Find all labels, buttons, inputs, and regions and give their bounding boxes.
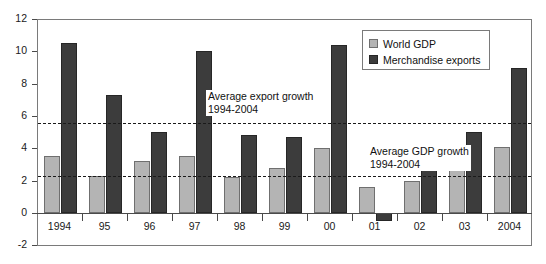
- export-growth-annotation: Average export growth 1994-2004: [206, 90, 315, 116]
- bar-gdp-95: [89, 176, 105, 213]
- x-axis-tick: [307, 214, 308, 221]
- bar-exp-96: [151, 132, 167, 213]
- x-axis-label-99: 99: [263, 220, 307, 232]
- chart-legend: World GDP Merchandise exports: [362, 30, 490, 70]
- export-annotation-line2: 1994-2004: [208, 103, 313, 116]
- x-axis-tick: [487, 214, 488, 221]
- bar-gdp-01: [359, 187, 375, 213]
- x-axis-tick: [217, 214, 218, 221]
- x-axis-label-1994: 1994: [38, 220, 82, 232]
- x-axis-label-02: 02: [398, 220, 442, 232]
- y-axis-label: 8: [1, 77, 27, 89]
- legend-swatch-icon-world-gdp: [369, 39, 378, 48]
- x-axis-tick: [172, 214, 173, 221]
- bar-gdp-1994: [44, 156, 60, 213]
- x-axis-tick: [127, 214, 128, 221]
- y-axis-label: -2: [1, 238, 27, 250]
- gdp-annotation-line2: 1994-2004: [370, 158, 469, 171]
- y-axis-label: 0: [1, 206, 27, 218]
- y-axis-label: 4: [1, 141, 27, 153]
- x-axis-label-98: 98: [218, 220, 262, 232]
- bar-gdp-2004: [494, 147, 510, 213]
- legend-label-world-gdp: World GDP: [383, 38, 436, 50]
- x-axis-label-2004: 2004: [488, 220, 532, 232]
- y-axis-label: 6: [1, 109, 27, 121]
- bar-gdp-97: [179, 156, 195, 213]
- export-annotation-line1: Average export growth: [208, 90, 313, 103]
- x-axis-tick: [262, 214, 263, 221]
- reference-line-average-export-growth: [38, 123, 531, 124]
- bar-exp-1994: [61, 43, 77, 213]
- bar-exp-2004: [511, 68, 527, 214]
- y-axis-label: 10: [1, 44, 27, 56]
- y-axis-label: 12: [1, 12, 27, 24]
- bar-exp-97: [196, 51, 212, 213]
- x-axis-label-96: 96: [128, 220, 172, 232]
- legend-item-world-gdp: World GDP: [369, 36, 483, 51]
- legend-swatch-icon-merchandise-exports: [369, 55, 378, 64]
- legend-item-merchandise-exports: Merchandise exports: [369, 52, 483, 67]
- bar-exp-98: [241, 135, 257, 213]
- x-axis-tick: [352, 214, 353, 221]
- x-axis-label-95: 95: [83, 220, 127, 232]
- bar-gdp-98: [224, 177, 240, 213]
- reference-line-average-gdp-growth: [38, 176, 531, 177]
- bar-exp-95: [106, 95, 122, 213]
- bar-exp-00: [331, 45, 347, 213]
- x-axis-label-01: 01: [353, 220, 397, 232]
- bar-chart: -2024681012 19949596979899000102032004 A…: [0, 0, 546, 264]
- x-axis-tick: [397, 214, 398, 221]
- bar-gdp-99: [269, 168, 285, 213]
- x-axis-label-97: 97: [173, 220, 217, 232]
- bar-gdp-02: [404, 181, 420, 213]
- y-axis-label: 2: [1, 174, 27, 186]
- gdp-annotation-line1: Average GDP growth: [370, 145, 469, 158]
- x-axis-tick: [442, 214, 443, 221]
- legend-label-merchandise-exports: Merchandise exports: [383, 54, 480, 66]
- x-axis-label-00: 00: [308, 220, 352, 232]
- bar-gdp-96: [134, 161, 150, 213]
- gdp-growth-annotation: Average GDP growth 1994-2004: [368, 145, 471, 171]
- x-axis-tick: [82, 214, 83, 221]
- x-axis-label-03: 03: [443, 220, 487, 232]
- x-axis-categories: 19949596979899000102032004: [37, 214, 532, 246]
- bar-gdp-00: [314, 148, 330, 213]
